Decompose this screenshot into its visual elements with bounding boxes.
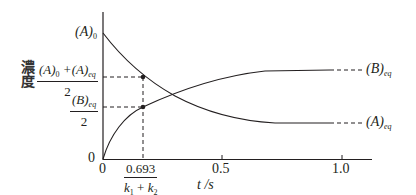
label-a-eq-text: (A): [366, 114, 384, 129]
label-half-life: 0.693 k1 + k2: [124, 162, 157, 195]
x-tick-label-1.0: 1.0: [332, 162, 350, 176]
num-plus-aeq: +(A): [60, 62, 89, 77]
label-a0-text: (A): [75, 24, 93, 39]
den-plus: +: [134, 180, 148, 195]
label-a0: (A)0: [75, 25, 97, 41]
point-b-half: [141, 105, 146, 110]
label-a0-sub: 0: [93, 32, 97, 41]
label-b-midpoint-denominator: 2: [70, 112, 98, 128]
origin-y-label: 0: [88, 151, 95, 165]
label-b-eq-text: (B): [366, 61, 384, 76]
label-a-eq-sub: eq: [384, 122, 392, 131]
label-b-eq: (B)eq: [366, 62, 391, 78]
num-b: (B): [72, 92, 89, 107]
half-life-denominator: k1 + k2: [124, 178, 157, 195]
origin-x-label: 0: [99, 162, 106, 176]
label-b-eq-sub: eq: [384, 69, 392, 78]
label-a-eq: (A)eq: [366, 115, 391, 131]
num-aeq-sub: eq: [88, 70, 96, 79]
x-tick-label-0.5: 0.5: [212, 162, 230, 176]
num-b-sub: eq: [89, 100, 97, 109]
label-a-midpoint-numerator: (A)0 +(A)eq: [37, 63, 98, 82]
curve-b: [103, 70, 330, 159]
label-b-midpoint: (B)eq 2: [70, 93, 98, 128]
num-a0: (A): [39, 62, 56, 77]
y-axis-title-text: 濃度: [18, 60, 36, 88]
label-b-midpoint-numerator: (B)eq: [70, 93, 98, 112]
point-a-half: [141, 75, 146, 80]
half-life-numerator: 0.693: [124, 162, 157, 178]
x-axis-title: t /s: [197, 178, 214, 192]
y-axis-title: 濃度: [18, 60, 36, 92]
den-k2-sub: 2: [153, 188, 157, 195]
